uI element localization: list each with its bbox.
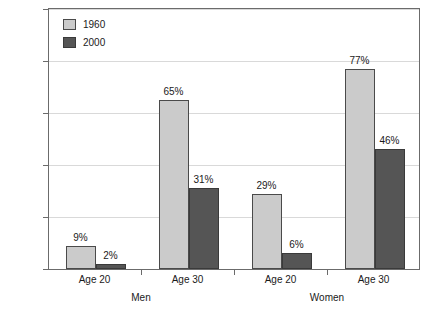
x-tick-mark-2 <box>234 269 235 275</box>
x-category-label-1: Age 30 <box>172 274 204 285</box>
bar-value-label-2000-1: 31% <box>193 174 213 185</box>
chart-legend: 1960 2000 <box>63 17 105 53</box>
bar-2000-3 <box>375 149 405 269</box>
legend-item-2000: 2000 <box>63 35 105 50</box>
legend-label-2000: 2000 <box>83 37 105 48</box>
legend-label-1960: 1960 <box>83 19 105 30</box>
bar-2000-2 <box>282 253 312 269</box>
x-tick-mark-1 <box>141 269 142 275</box>
x-category-label-0: Age 20 <box>79 274 111 285</box>
bar-value-label-1960-1: 65% <box>163 86 183 97</box>
grouped-bar-chart: 0%20%40%60%80%100% 9%2%65%31%29%6%77%46%… <box>0 0 440 313</box>
bar-1960-3 <box>345 69 375 269</box>
x-category-label-3: Age 30 <box>358 274 390 285</box>
gridline-100 <box>49 9 419 10</box>
bar-1960-0 <box>66 246 96 269</box>
legend-swatch-1960-icon <box>63 19 76 30</box>
bar-value-label-1960-2: 29% <box>256 180 276 191</box>
plot-area: 9%2%65%31%29%6%77%46% 1960 2000 <box>48 8 420 270</box>
bar-2000-0 <box>96 264 126 269</box>
bar-value-label-1960-3: 77% <box>349 55 369 66</box>
bar-1960-2 <box>252 194 282 269</box>
bar-1960-1 <box>159 100 189 269</box>
legend-swatch-2000-icon <box>63 37 76 48</box>
bar-value-label-2000-2: 6% <box>289 239 303 250</box>
legend-item-1960: 1960 <box>63 17 105 32</box>
x-tick-mark-3 <box>327 269 328 275</box>
x-category-label-2: Age 20 <box>265 274 297 285</box>
bar-value-label-2000-0: 2% <box>103 250 117 261</box>
bar-2000-1 <box>189 188 219 269</box>
bar-value-label-2000-3: 46% <box>379 135 399 146</box>
bar-value-label-1960-0: 9% <box>73 232 87 243</box>
x-group-label-men: Men <box>131 292 150 303</box>
x-group-label-women: Women <box>310 292 344 303</box>
